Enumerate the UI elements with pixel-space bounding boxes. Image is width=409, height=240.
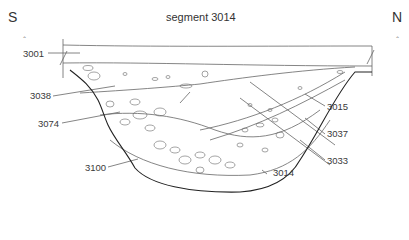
label-3015: 3015: [327, 101, 348, 112]
label-3037: 3037: [327, 128, 348, 139]
label-3014: 3014: [273, 167, 294, 178]
label-3033: 3033: [327, 155, 348, 166]
label-3001: 3001: [23, 48, 44, 59]
label-3074: 3074: [38, 118, 59, 129]
stones: [83, 66, 343, 174]
label-3038: 3038: [30, 90, 51, 101]
label-3100: 3100: [85, 162, 106, 173]
layer-3001-base: [63, 63, 372, 66]
surface-line: [63, 45, 372, 46]
